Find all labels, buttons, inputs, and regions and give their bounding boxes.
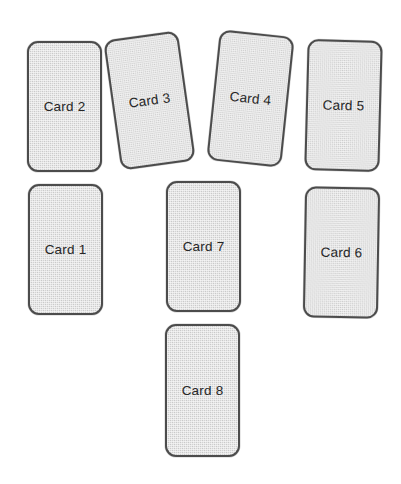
card-3[interactable]: Card 3 xyxy=(103,30,196,170)
card-5[interactable]: Card 5 xyxy=(304,39,382,172)
card-label: Card 1 xyxy=(45,243,87,257)
card-label: Card 2 xyxy=(44,100,86,114)
card-label: Card 5 xyxy=(322,98,364,113)
card-label: Card 3 xyxy=(128,91,171,110)
card-label: Card 8 xyxy=(182,384,224,398)
card-1[interactable]: Card 1 xyxy=(28,184,103,315)
card-6[interactable]: Card 6 xyxy=(303,186,380,318)
card-label: Card 6 xyxy=(321,245,363,259)
card-8[interactable]: Card 8 xyxy=(165,324,240,457)
card-2[interactable]: Card 2 xyxy=(27,41,102,172)
card-label: Card 7 xyxy=(183,240,225,254)
card-7[interactable]: Card 7 xyxy=(166,181,241,312)
card-label: Card 4 xyxy=(229,90,272,108)
card-4[interactable]: Card 4 xyxy=(206,29,294,167)
card-surface: Card 2Card 3Card 4Card 5Card 1Card 7Card… xyxy=(0,0,401,484)
